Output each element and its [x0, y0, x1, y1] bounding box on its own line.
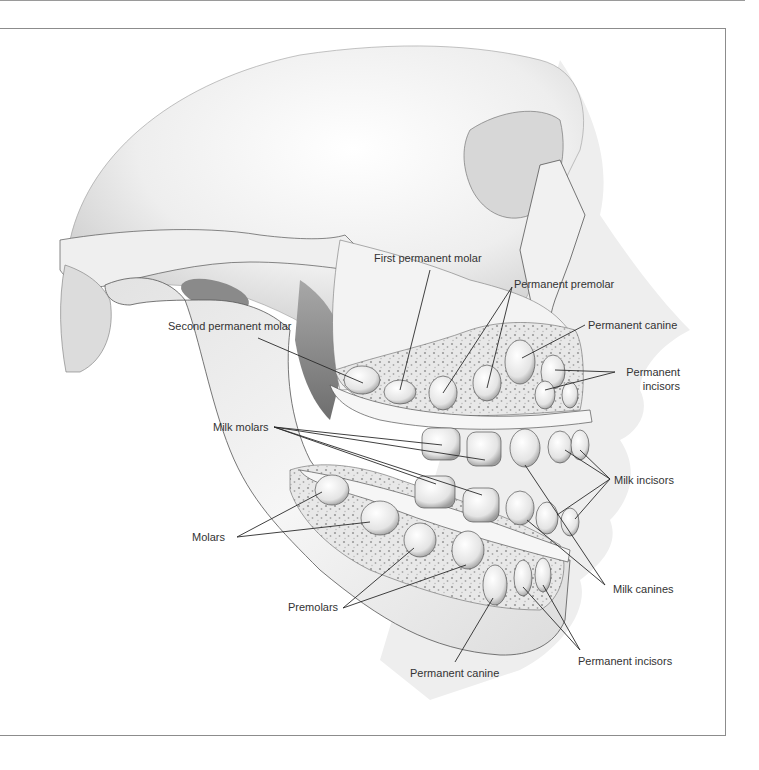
label-first-permanent-molar: First permanent molar	[374, 252, 482, 265]
label-permanent-canine-lower: Permanent canine	[410, 667, 499, 680]
label-permanent-canine-upper: Permanent canine	[588, 319, 677, 332]
label-permanent-incisors-lower: Permanent incisors	[578, 655, 672, 668]
label-second-permanent-molar: Second permanent molar	[168, 320, 292, 333]
label-milk-canines: Milk canines	[613, 583, 674, 596]
label-permanent-premolar: Permanent premolar	[514, 278, 614, 291]
label-milk-incisors: Milk incisors	[614, 474, 674, 487]
label-premolars: Premolars	[288, 601, 338, 614]
label-milk-molars: Milk molars	[213, 421, 269, 434]
label-molars: Molars	[192, 531, 225, 544]
label-permanent-incisors-upper-line2: incisors	[620, 380, 680, 393]
label-permanent-incisors-upper-line1: Permanent	[620, 366, 680, 379]
